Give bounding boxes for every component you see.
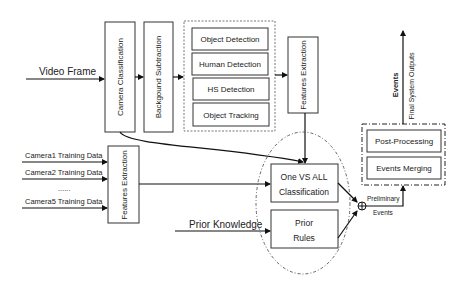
features-extraction-top-label: Features Extraction [299,40,308,109]
prior-rules-label-1: Prior [295,218,313,228]
arrow-ova-combine [338,183,357,202]
ellipsis-label: ...... [58,184,71,193]
events-merging-label: Events Merging [376,164,432,173]
post-processing-label: Post-Processing [375,137,433,146]
camera1-label: Camera1 Training Data [25,151,103,160]
system-diagram: Video Frame Camera Classification Backgo… [0,0,470,281]
combiner-plus-icon [358,202,366,210]
camera2-label: Camera2 Training Data [25,168,103,177]
prior-knowledge-label: Prior Knowledge [189,219,263,230]
human-detection-label: Human Detection [199,60,261,69]
one-vs-all-label-1: One VS ALL [281,172,328,182]
arrow-cc-ova [120,132,303,162]
one-vs-all-label-2: Classification [279,187,329,197]
hs-detection-label: HS Detection [207,85,254,94]
classification-ellipse [256,132,350,274]
background-subtraction-label: Backgound Subtraction [154,36,163,119]
prior-rules-label-2: Rules [293,233,315,243]
final-outputs-label: Final System Outputs [408,52,416,119]
camera-classification-label: Camera Classification [116,38,125,116]
object-tracking-label: Object Tracking [203,111,259,120]
preliminary-label-2: Events [373,209,394,216]
object-detection-label: Object Detection [200,35,259,44]
arrow-rules-combine [338,211,357,238]
video-frame-label: Video Frame [39,66,97,77]
events-label: Events [391,73,400,98]
camera5-label: Camera5 Training Data [25,197,103,206]
preliminary-label-1: Preliminary [367,195,400,203]
features-extraction-left-label: Features Extraction [120,150,129,219]
